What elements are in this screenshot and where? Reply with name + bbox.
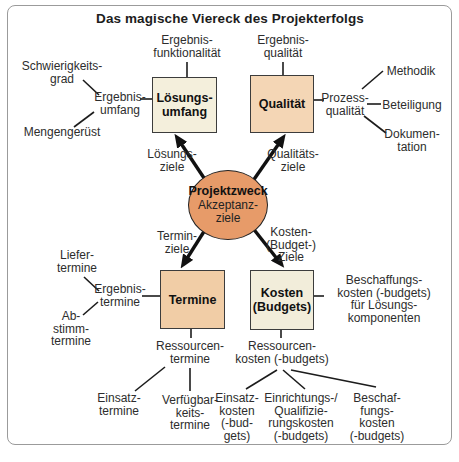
line-ressourcentermine-einsatztermine [135, 367, 165, 391]
line-ressourcenkosten-beschaffungskosten [291, 370, 376, 387]
box-loesungsumfang: Lösungs- umfang [152, 77, 217, 133]
label-ergebnisumfang: Ergebnis- umfang [80, 91, 160, 116]
label-dokumentation: Dokumen- tation [372, 128, 452, 153]
label-mengengeruest: Mengengerüst [12, 126, 112, 139]
label-beschaffungskosten: Beschaf- fungs- kosten (-budgets) [337, 392, 417, 443]
label-beschaffungskosten-loesung: Beschaffungs- kosten (-budgets) für Lösu… [319, 274, 449, 325]
label-abstimmtermine: Ab- stimm- termine [31, 310, 111, 348]
box-termine: Termine [160, 270, 225, 329]
label-einsatztermine: Einsatz- termine [79, 392, 159, 417]
label-qualitaetsziele: Qualitäts- ziele [253, 148, 333, 173]
box-kosten: Kosten (Budgets) [250, 270, 314, 330]
label-beteiligung: Beteiligung [367, 99, 457, 112]
label-terminziele: Termin- ziele [137, 230, 217, 255]
label-methodik: Methodik [371, 65, 451, 78]
label-schwierigkeitsgrad: Schwierigkeits- grad [12, 60, 112, 85]
line-ressourcenkosten-einsatzkosten [246, 370, 277, 389]
center-ellipse-title: Projektzweck [188, 185, 267, 199]
label-kostenziele: Kosten- (Budget-) Ziele [251, 226, 331, 264]
label-ressourcenkosten: Ressourcen- kosten (-budgets) [222, 340, 342, 365]
label-ergebnisqualitaet: Ergebnis- qualität [223, 34, 343, 59]
label-liefertermine: Liefer- termine [37, 249, 117, 274]
label-loesungsziele: Lösungs- ziele [132, 148, 212, 173]
center-ellipse-subtitle: Akzeptanz- ziele [198, 199, 258, 225]
diagram-magic-square-project-success: Das magische Viereck des Projekterfolgs [0, 0, 459, 462]
label-ergebnistermine: Ergebnis- termine [75, 283, 165, 308]
